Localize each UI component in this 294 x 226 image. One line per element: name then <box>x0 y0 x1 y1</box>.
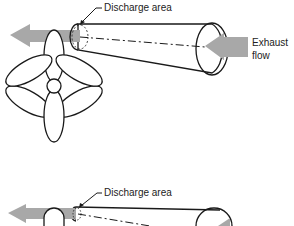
discharge-area-label-top: Discharge area <box>104 2 172 14</box>
discharge-flow-arrow <box>10 24 78 47</box>
exhaust-label-line1: Exhaust <box>252 37 288 49</box>
top-diagram <box>1 8 248 142</box>
exhaust-label-line2: flow <box>252 50 270 62</box>
fan-blade-bottom <box>44 208 64 226</box>
discharge-leader-line <box>82 8 102 22</box>
discharge-area-label-bottom: Discharge area <box>104 187 172 199</box>
